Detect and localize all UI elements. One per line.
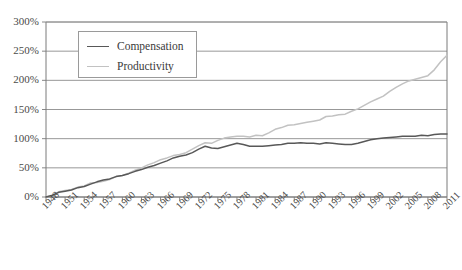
- legend-swatch-icon: [87, 66, 109, 67]
- chart-legend: CompensationProductivity: [78, 31, 197, 78]
- y-axis-tick-label: 100%: [0, 133, 39, 144]
- legend-item-productivity: Productivity: [87, 60, 174, 72]
- legend-item-compensation: Compensation: [87, 40, 183, 52]
- legend-swatch-icon: [87, 46, 109, 47]
- legend-label: Compensation: [117, 40, 183, 52]
- y-axis-tick-label: 0%: [0, 191, 39, 202]
- y-axis-tick-label: 300%: [0, 16, 39, 27]
- y-axis-tick-label: 250%: [0, 45, 39, 56]
- y-axis-tick-label: 200%: [0, 74, 39, 85]
- y-axis-tick-label: 150%: [0, 104, 39, 115]
- y-axis-tick-label: 50%: [0, 162, 39, 173]
- legend-label: Productivity: [117, 60, 174, 72]
